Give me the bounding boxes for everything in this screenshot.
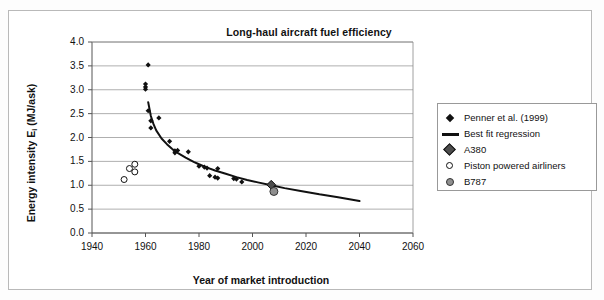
x-tick-label: 2020: [285, 241, 327, 252]
line-icon-glyph: [442, 133, 459, 136]
data-point-penner-et-al-1999: [148, 125, 153, 130]
x-tick-label: 1980: [178, 241, 220, 252]
x-tick-label: 2060: [392, 241, 434, 252]
best-fit-regression-line: [148, 102, 359, 201]
data-point-penner-et-al-1999: [156, 115, 161, 120]
y-tick-label: 1.0: [54, 179, 84, 190]
diamond-small-icon: [438, 110, 464, 126]
chart-legend: Penner et al. (1999)Best fit regressionA…: [437, 103, 597, 191]
data-point-penner-et-al-1999: [186, 149, 191, 154]
y-axis-title-sub: i: [30, 129, 39, 131]
axis-ticks: [88, 42, 413, 237]
figure-frame: Long-haul aircraft fuel efficiency Energ…: [8, 10, 592, 290]
data-point-b787: [270, 187, 278, 195]
data-point-piston-powered-airliners: [132, 169, 138, 175]
legend-label: Best fit regression: [464, 126, 540, 142]
diamond-grey-icon-glyph: [443, 143, 456, 156]
data-points: [121, 62, 278, 195]
circle-open-icon-glyph: [446, 162, 453, 169]
legend-entry[interactable]: Penner et al. (1999): [438, 110, 598, 126]
circle-grey-icon: [438, 174, 464, 190]
legend-entry[interactable]: A380: [438, 142, 598, 158]
legend-entry[interactable]: Piston powered airliners: [438, 158, 598, 174]
y-tick-label: 0.5: [54, 203, 84, 214]
x-tick-label: 2000: [232, 241, 274, 252]
legend-label: A380: [464, 142, 486, 158]
x-axis-title: Year of market introduction: [100, 274, 422, 286]
chart-figure: Long-haul aircraft fuel efficiency Energ…: [0, 0, 604, 300]
y-tick-label: 3.5: [54, 60, 84, 71]
y-tick-label: 0.0: [54, 227, 84, 238]
circle-open-icon: [438, 158, 464, 174]
x-tick-label: 1940: [71, 241, 113, 252]
diamond-small-icon-glyph: [446, 114, 454, 122]
regression-curve: [148, 102, 359, 201]
line-icon: [438, 126, 464, 142]
data-point-piston-powered-airliners: [132, 161, 138, 167]
legend-label: B787: [464, 174, 486, 190]
x-tick-label: 1960: [125, 241, 167, 252]
y-tick-label: 1.5: [54, 155, 84, 166]
y-tick-label: 3.0: [54, 84, 84, 95]
data-point-penner-et-al-1999: [207, 173, 212, 178]
data-point-penner-et-al-1999: [167, 139, 172, 144]
diamond-grey-icon: [438, 142, 464, 158]
y-tick-label: 2.5: [54, 108, 84, 119]
legend-entry[interactable]: B787: [438, 174, 598, 190]
legend-entry[interactable]: Best fit regression: [438, 126, 598, 142]
data-point-penner-et-al-1999: [146, 62, 151, 67]
y-axis-title-main: Energy intensity E: [25, 131, 37, 223]
gridlines: [92, 42, 413, 233]
circle-grey-icon-glyph: [446, 178, 454, 186]
legend-label: Penner et al. (1999): [464, 110, 548, 126]
y-axis-title: Energy intensity Ei (MJ/ask): [25, 53, 37, 253]
y-axis-title-units: (MJ/ask): [25, 84, 37, 129]
data-point-piston-powered-airliners: [121, 177, 127, 183]
y-tick-label: 2.0: [54, 132, 84, 143]
y-tick-label: 4.0: [54, 36, 84, 47]
legend-label: Piston powered airliners: [464, 158, 565, 174]
x-tick-label: 2040: [339, 241, 381, 252]
